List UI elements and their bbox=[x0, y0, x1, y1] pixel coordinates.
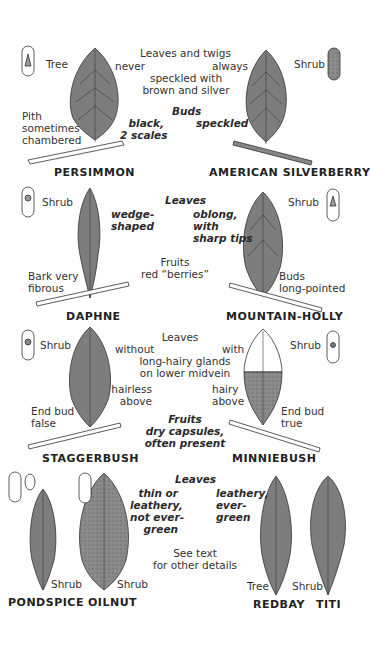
mountain-holly-pith-icon bbox=[327, 189, 339, 221]
panel1-detail-1: speckled with bbox=[136, 72, 236, 84]
panel3-with: with bbox=[222, 343, 244, 355]
silverberry-leaf-icon bbox=[246, 50, 286, 144]
minniebush-note-1: End bud bbox=[281, 405, 324, 417]
silverberry-habit: Shrub bbox=[294, 58, 325, 70]
staggerbush-leaf-icon bbox=[69, 327, 110, 427]
daphne-habit: Shrub bbox=[42, 196, 73, 208]
persimmon-note-1: Pith bbox=[22, 110, 42, 122]
species-name-mountain-holly: MOUNTAIN-HOLLY bbox=[226, 310, 343, 323]
titi-habit: Shrub bbox=[292, 580, 323, 592]
mountain-holly-note-2: long-pointed bbox=[279, 282, 345, 294]
daphne-pith-icon bbox=[22, 187, 34, 217]
panel4-left-detail-1: thin or bbox=[130, 487, 178, 499]
staggerbush-surface-2: above bbox=[100, 395, 152, 407]
species-name-daphne: DAPHNE bbox=[66, 310, 121, 323]
panel1-buds-left-2: 2 scales bbox=[120, 129, 164, 141]
panel4-left-detail-4: green bbox=[130, 523, 178, 535]
daphne-leaf-note-1: wedge- bbox=[111, 208, 154, 220]
species-name-titi: TITI bbox=[316, 598, 341, 611]
daphne-note-1: Bark very bbox=[28, 270, 79, 282]
panel1-detail-2: brown and silver bbox=[136, 84, 236, 96]
staggerbush-surface-1: hairless bbox=[100, 383, 152, 395]
minniebush-twig-icon bbox=[229, 420, 320, 452]
mountain-holly-habit: Shrub bbox=[288, 196, 319, 208]
minniebush-surface-2: above bbox=[212, 395, 244, 407]
redbay-habit: Tree bbox=[247, 580, 269, 592]
oilnut-pith-icon bbox=[79, 473, 91, 503]
panel4-right-detail-1: leathery, bbox=[216, 487, 269, 499]
panel4-right-detail-2: ever- bbox=[216, 499, 247, 511]
panel4-see-text-1: See text bbox=[150, 547, 240, 559]
pondspice-habit: Shrub bbox=[51, 578, 82, 590]
persimmon-habit: Tree bbox=[46, 58, 68, 70]
panel2-leaves-detail-1: oblong, bbox=[193, 208, 238, 220]
staggerbush-habit: Shrub bbox=[40, 339, 71, 351]
panel2-fruits-1: Fruits bbox=[140, 256, 210, 268]
panel2-leaves-detail-2: with bbox=[193, 220, 219, 232]
staggerbush-note-1: End bud bbox=[31, 405, 74, 417]
pondspice-leaf-icon bbox=[30, 489, 56, 590]
species-name-american-silverberry: AMERICAN SILVERBERRY bbox=[209, 166, 370, 179]
species-name-pondspice: PONDSPICE bbox=[8, 596, 84, 609]
species-name-minniebush: MINNIEBUSH bbox=[232, 452, 317, 465]
species-name-staggerbush: STAGGERBUSH bbox=[42, 452, 139, 465]
persimmon-note-2: sometimes bbox=[22, 122, 80, 134]
minniebush-leaf-icon bbox=[244, 329, 282, 425]
panel1-leaves-line: Leaves and twigs bbox=[140, 47, 230, 59]
panel2-fruits-2: red “berries” bbox=[140, 268, 210, 280]
silverberry-twig-icon bbox=[233, 141, 312, 165]
panel3-without: without bbox=[115, 343, 154, 355]
panel3-detail-1: long-hairy glands bbox=[130, 355, 240, 367]
pondspice-pith-icon bbox=[9, 472, 35, 502]
staggerbush-note-2: false bbox=[31, 417, 56, 429]
persimmon-note-3: chambered bbox=[22, 134, 81, 146]
minniebush-surface-1: hairy bbox=[212, 383, 239, 395]
panel1-buds-left-1: black, bbox=[120, 117, 164, 129]
panel2-leaves-detail-3: sharp tips bbox=[193, 232, 253, 244]
panel3-fruits-2: dry capsules, bbox=[140, 425, 230, 437]
species-name-oilnut: OILNUT bbox=[88, 596, 137, 609]
panel3-fruits-3: often present bbox=[140, 437, 230, 449]
species-name-redbay: REDBAY bbox=[253, 598, 305, 611]
minniebush-pith-icon bbox=[327, 331, 339, 363]
panel1-never: never bbox=[115, 60, 145, 72]
daphne-leaf-icon bbox=[78, 188, 100, 298]
mountain-holly-note-1: Buds bbox=[279, 270, 305, 282]
panel3-fruits-1: Fruits bbox=[140, 413, 230, 425]
panel3-detail-2: on lower midvein bbox=[130, 367, 240, 379]
daphne-leaf-note-2: shaped bbox=[111, 220, 154, 232]
panel4-right-detail-3: green bbox=[216, 511, 250, 523]
titi-leaf-icon bbox=[311, 476, 346, 595]
panel1-always: always bbox=[212, 60, 248, 72]
panel4-left-detail-3: not ever- bbox=[130, 511, 178, 523]
panel4-leaves-label: Leaves bbox=[175, 473, 216, 485]
panel1-buds-label: Buds bbox=[172, 105, 201, 117]
oilnut-habit: Shrub bbox=[117, 578, 148, 590]
daphne-note-2: fibrous bbox=[28, 282, 64, 294]
panel1-buds-right: speckled bbox=[196, 117, 248, 129]
silverberry-pith-icon bbox=[328, 48, 340, 80]
staggerbush-pith-icon bbox=[22, 330, 34, 360]
panel4-see-text-2: for other details bbox=[150, 559, 240, 571]
persimmon-pith-icon bbox=[22, 46, 34, 76]
species-name-persimmon: PERSIMMON bbox=[54, 166, 135, 179]
panel3-leaves-label: Leaves bbox=[150, 331, 210, 343]
mountain-holly-leaf-icon bbox=[243, 192, 282, 296]
minniebush-habit: Shrub bbox=[290, 339, 321, 351]
panel2-leaves-label: Leaves bbox=[165, 194, 206, 206]
minniebush-note-2: true bbox=[281, 417, 303, 429]
panel4-left-detail-2: leathery, bbox=[130, 499, 178, 511]
